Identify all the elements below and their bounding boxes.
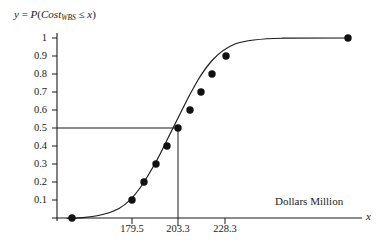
- data-point-7: [197, 88, 204, 95]
- data-point-9: [222, 52, 229, 59]
- plot-canvas: [0, 0, 383, 245]
- data-point-1: [128, 196, 135, 203]
- axes-group: [52, 33, 362, 221]
- data-point-3: [152, 160, 159, 167]
- y-axis-ticks: [52, 38, 57, 200]
- data-point-6: [186, 106, 193, 113]
- data-point-8: [208, 70, 215, 77]
- data-point-2: [140, 178, 147, 185]
- data-point-10: [344, 34, 351, 41]
- data-point-5-median: [174, 124, 181, 131]
- data-point-4: [163, 142, 170, 149]
- data-point-0: [68, 214, 75, 221]
- median-reference-lines: [57, 128, 178, 226]
- cdf-chart-figure: y = P(CostWBS ≤ x) Dollars Million x 1 0…: [0, 0, 383, 245]
